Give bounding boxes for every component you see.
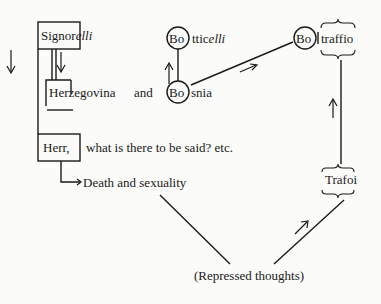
herzegovina-label: Herzegovina [49, 85, 115, 100]
repressed-to-trafoi-line [274, 200, 344, 264]
arrow-down-inner-icon [57, 52, 65, 72]
bosnia-circled: Bo [169, 85, 184, 100]
herr-rest: what is there to be said? etc. [86, 140, 233, 155]
arrow-up-botticelli-icon [165, 63, 173, 84]
herr-boxed: Herr, [43, 140, 70, 155]
boltraffio-circled: Bo [296, 31, 311, 46]
trafoi-top-brace [322, 164, 354, 172]
repressed-label: (Repressed thoughts) [194, 268, 304, 283]
and-label: and [134, 85, 153, 100]
arrow-up-trafoi-icon [329, 99, 337, 118]
signorelli-suffix: elli [76, 28, 93, 43]
diagram-canvas: Signorelli Herzegovina and Bo snia Bo tt… [0, 0, 381, 304]
signorelli-prefix: Signor [41, 28, 76, 43]
botticelli-rest: tticelli [192, 31, 225, 46]
trafoi-bottom-brace [322, 190, 354, 198]
botticelli-italic: elli [209, 31, 226, 46]
botticelli-circled: Bo [169, 31, 184, 46]
boltraffio-bottom-brace [321, 50, 355, 59]
trafoi-label: Trafoi [325, 172, 357, 187]
arrow-up-right-repressed-icon [295, 221, 308, 234]
herzegovina-prefix: Her [49, 85, 69, 100]
bosnia-to-boltraffio-line [191, 42, 293, 85]
herzegovina-rest: zegovina [69, 85, 116, 100]
botticelli-rest-text: ttic [192, 31, 209, 46]
death-label: Death and sexuality [83, 175, 186, 190]
arrow-down-left-icon [7, 50, 15, 73]
boltraffio-rest: traffio [321, 31, 353, 46]
arrow-right-diagonal-icon [240, 64, 257, 72]
bosnia-rest: snia [191, 85, 212, 100]
boltraffio-top-brace [321, 19, 355, 28]
death-to-repressed-line [160, 195, 230, 264]
signorelli-label: Signorelli [41, 28, 92, 43]
